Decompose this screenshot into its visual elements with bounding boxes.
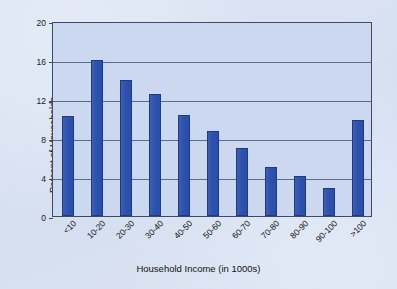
bar <box>207 131 219 216</box>
y-axis-tick-label: 20 <box>37 19 46 28</box>
x-axis-tick-label: 10-20 <box>85 219 106 240</box>
bar <box>323 188 335 216</box>
x-axis-tick-labels: <1010-2020-3030-4040-5050-6060-7070-8080… <box>52 219 372 263</box>
x-axis-tick-label: 40-50 <box>173 219 194 240</box>
bar <box>236 148 248 216</box>
y-axis-tick-label: 0 <box>41 214 46 223</box>
x-axis-tick-label: <10 <box>61 219 77 235</box>
y-axis-tick-label: 8 <box>41 136 46 145</box>
bar <box>149 94 161 216</box>
bar <box>62 116 74 216</box>
x-axis-tick-label: 80-90 <box>289 219 310 240</box>
x-axis-tick-label: 60-70 <box>231 219 252 240</box>
x-axis-tick-label: 30-40 <box>143 219 164 240</box>
x-axis-tick-label: 20-30 <box>114 219 135 240</box>
x-axis-tick-label: 90-100 <box>315 219 340 244</box>
y-axis-tick-label: 16 <box>37 58 46 67</box>
x-axis-title: Household Income (in 1000s) <box>0 263 397 274</box>
bar <box>294 176 306 216</box>
x-axis-tick-label: 70-80 <box>260 219 281 240</box>
plot-area: 048121620 <box>52 22 372 217</box>
bar <box>91 60 103 216</box>
bar <box>265 167 277 216</box>
x-axis-tick-label: >100 <box>349 219 369 239</box>
y-axis-tick-label: 12 <box>37 97 46 106</box>
bar-chart: Percent of Households 048121620 <1010-20… <box>0 0 397 289</box>
x-axis-tick-label: 50-60 <box>202 219 223 240</box>
bar-series <box>53 23 371 216</box>
bar <box>120 80 132 217</box>
bar <box>178 115 190 216</box>
bar <box>352 120 364 216</box>
y-axis-tick-label: 4 <box>41 175 46 184</box>
